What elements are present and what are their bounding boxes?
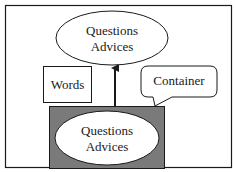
top-ellipse-line2: Advices: [91, 39, 134, 54]
diagram-canvas: Questions Advices Questions Advices Word…: [0, 0, 236, 172]
inner-ellipse-line1: Questions: [81, 123, 133, 138]
words-label: Words: [51, 77, 85, 92]
top-ellipse-line1: Questions: [86, 23, 138, 38]
inner-ellipse-line2: Advices: [86, 139, 129, 154]
inner-ellipse: Questions Advices: [55, 111, 159, 165]
words-box: Words: [44, 67, 92, 103]
top-ellipse: Questions Advices: [56, 11, 168, 65]
callout-label: Container: [153, 73, 205, 88]
